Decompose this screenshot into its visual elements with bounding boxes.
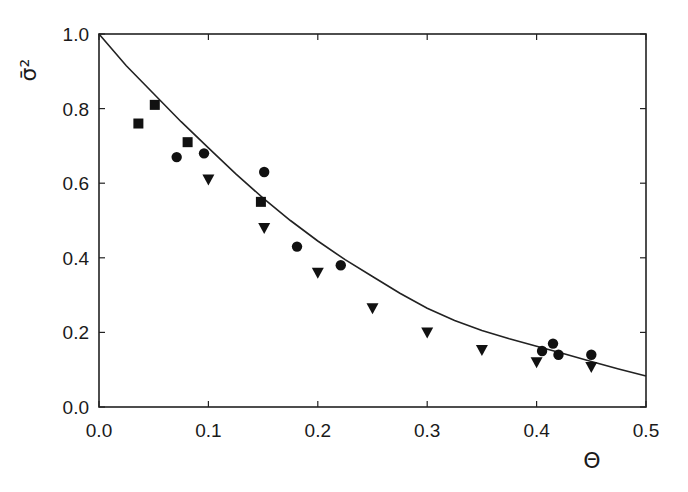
y-tick-label: 0.6 xyxy=(63,173,89,194)
fit-curve xyxy=(99,34,646,376)
circle-marker xyxy=(171,152,181,162)
x-tick-labels: 0.00.10.20.30.40.5 xyxy=(86,420,659,441)
axis-ticks xyxy=(99,34,646,407)
plot-frame xyxy=(99,34,646,407)
circle-marker xyxy=(259,167,269,177)
square-marker xyxy=(150,100,160,110)
x-tick-label: 0.2 xyxy=(305,420,331,441)
x-axis-title: Θ xyxy=(583,448,600,473)
triangle-marker xyxy=(202,174,214,185)
circle-marker xyxy=(199,148,209,158)
circle-marker xyxy=(548,338,558,348)
triangle-marker xyxy=(258,223,270,234)
circle-marker xyxy=(586,350,596,360)
square-marker xyxy=(256,197,266,207)
x-tick-label: 0.0 xyxy=(86,420,112,441)
y-tick-label: 0.0 xyxy=(63,397,89,418)
triangle-marker xyxy=(421,327,433,338)
x-tick-label: 0.4 xyxy=(523,420,550,441)
circle-marker xyxy=(553,350,563,360)
data-markers xyxy=(133,100,597,373)
x-tick-label: 0.3 xyxy=(414,420,440,441)
triangle-marker xyxy=(585,362,597,373)
circle-marker xyxy=(336,260,346,270)
y-tick-label: 0.4 xyxy=(63,248,90,269)
triangle-marker xyxy=(531,357,543,368)
fit-curve-path xyxy=(99,34,646,376)
triangle-marker xyxy=(476,345,488,356)
x-tick-label: 0.5 xyxy=(633,420,659,441)
y-tick-label: 1.0 xyxy=(63,24,89,45)
y-axis-title: σ̄² xyxy=(16,59,41,82)
square-marker xyxy=(133,119,143,129)
circle-marker xyxy=(537,346,547,356)
x-tick-label: 0.1 xyxy=(195,420,221,441)
y-tick-label: 0.2 xyxy=(63,322,89,343)
square-marker xyxy=(183,137,193,147)
triangle-marker xyxy=(367,303,379,314)
circle-marker xyxy=(292,241,302,251)
plot-border xyxy=(99,34,646,407)
scatter-chart: 0.00.10.20.30.40.5 0.00.20.40.60.81.0 Θ … xyxy=(0,0,688,492)
y-tick-label: 0.8 xyxy=(63,99,89,120)
y-tick-labels: 0.00.20.40.60.81.0 xyxy=(63,24,90,418)
triangle-marker xyxy=(312,268,324,279)
